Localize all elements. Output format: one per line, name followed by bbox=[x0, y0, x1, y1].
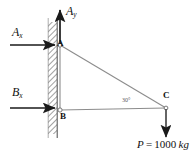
truss-members bbox=[60, 45, 166, 110]
label-force-ax: Ax bbox=[12, 26, 23, 40]
wall-hatching bbox=[48, 22, 57, 134]
label-joint-b: B bbox=[60, 112, 66, 121]
label-joint-a: A bbox=[57, 39, 64, 48]
label-angle-c: 30° bbox=[122, 97, 130, 103]
wall-support bbox=[48, 18, 57, 138]
label-force-ay: Ay bbox=[66, 5, 77, 19]
member-ac bbox=[60, 45, 166, 108]
label-load-p: P = 1000 kg bbox=[137, 139, 189, 150]
truss-diagram-svg bbox=[0, 0, 195, 159]
force-arrows bbox=[10, 10, 166, 137]
diagram-canvas: Ax Ay Bx A B C 30° P = 1000 kg bbox=[0, 0, 195, 159]
member-bc bbox=[60, 108, 166, 110]
label-joint-c: C bbox=[163, 91, 170, 100]
label-force-bx: Bx bbox=[12, 86, 23, 100]
